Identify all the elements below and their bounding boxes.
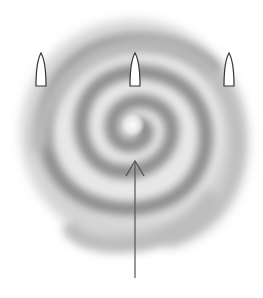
diagram-canvas bbox=[0, 0, 263, 298]
spiral-diagram bbox=[0, 0, 263, 298]
flame-left-icon bbox=[36, 53, 46, 86]
flame-right-icon bbox=[224, 53, 234, 86]
spiral-core bbox=[121, 113, 145, 137]
